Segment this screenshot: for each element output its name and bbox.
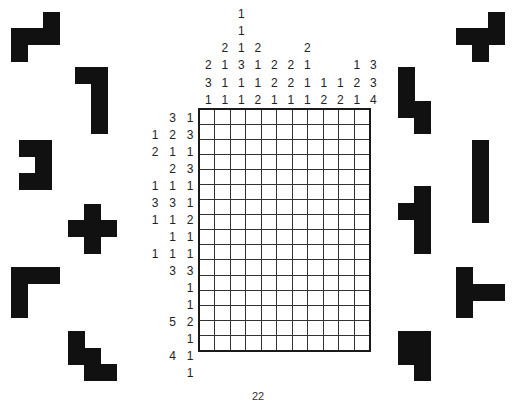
grid-cell[interactable] xyxy=(308,139,324,154)
grid-cell[interactable] xyxy=(354,335,370,350)
grid-cell[interactable] xyxy=(230,335,246,350)
grid-cell[interactable] xyxy=(339,230,355,245)
grid-cell[interactable] xyxy=(215,200,231,215)
grid-cell[interactable] xyxy=(323,305,339,320)
grid-cell[interactable] xyxy=(308,154,324,169)
grid-cell[interactable] xyxy=(339,275,355,290)
puzzle-grid[interactable] xyxy=(198,108,371,352)
grid-cell[interactable] xyxy=(199,215,215,230)
grid-cell[interactable] xyxy=(308,184,324,199)
grid-cell[interactable] xyxy=(277,245,293,260)
grid-cell[interactable] xyxy=(308,290,324,305)
grid-cell[interactable] xyxy=(292,200,308,215)
grid-cell[interactable] xyxy=(323,335,339,350)
grid-cell[interactable] xyxy=(277,154,293,169)
grid-cell[interactable] xyxy=(199,184,215,199)
grid-cell[interactable] xyxy=(261,320,277,335)
grid-cell[interactable] xyxy=(199,320,215,335)
grid-cell[interactable] xyxy=(199,245,215,260)
grid-cell[interactable] xyxy=(230,124,246,139)
grid-cell[interactable] xyxy=(308,200,324,215)
grid-cell[interactable] xyxy=(215,215,231,230)
grid-cell[interactable] xyxy=(261,260,277,275)
grid-cell[interactable] xyxy=(292,230,308,245)
grid-cell[interactable] xyxy=(199,260,215,275)
grid-cell[interactable] xyxy=(246,109,262,124)
grid-cell[interactable] xyxy=(261,215,277,230)
grid-cell[interactable] xyxy=(323,215,339,230)
grid-cell[interactable] xyxy=(261,184,277,199)
grid-cell[interactable] xyxy=(308,305,324,320)
grid-cell[interactable] xyxy=(292,320,308,335)
grid-cell[interactable] xyxy=(199,275,215,290)
grid-cell[interactable] xyxy=(323,230,339,245)
grid-cell[interactable] xyxy=(199,335,215,350)
grid-cell[interactable] xyxy=(308,124,324,139)
grid-cell[interactable] xyxy=(292,124,308,139)
grid-cell[interactable] xyxy=(199,305,215,320)
grid-cell[interactable] xyxy=(246,169,262,184)
grid-cell[interactable] xyxy=(308,230,324,245)
grid-cell[interactable] xyxy=(230,109,246,124)
grid-cell[interactable] xyxy=(339,169,355,184)
grid-cell[interactable] xyxy=(354,230,370,245)
grid-cell[interactable] xyxy=(246,184,262,199)
grid-cell[interactable] xyxy=(199,139,215,154)
grid-cell[interactable] xyxy=(230,154,246,169)
grid-cell[interactable] xyxy=(246,154,262,169)
grid-cell[interactable] xyxy=(230,200,246,215)
grid-cell[interactable] xyxy=(354,215,370,230)
grid-cell[interactable] xyxy=(215,154,231,169)
grid-cell[interactable] xyxy=(230,215,246,230)
grid-cell[interactable] xyxy=(354,184,370,199)
grid-cell[interactable] xyxy=(215,335,231,350)
grid-cell[interactable] xyxy=(354,169,370,184)
grid-cell[interactable] xyxy=(323,320,339,335)
grid-cell[interactable] xyxy=(261,335,277,350)
grid-cell[interactable] xyxy=(215,260,231,275)
grid-cell[interactable] xyxy=(292,290,308,305)
grid-cell[interactable] xyxy=(339,184,355,199)
grid-cell[interactable] xyxy=(230,305,246,320)
grid-cell[interactable] xyxy=(277,109,293,124)
grid-cell[interactable] xyxy=(230,260,246,275)
grid-cell[interactable] xyxy=(215,245,231,260)
grid-cell[interactable] xyxy=(308,215,324,230)
grid-cell[interactable] xyxy=(246,139,262,154)
grid-cell[interactable] xyxy=(308,245,324,260)
grid-cell[interactable] xyxy=(354,124,370,139)
grid-cell[interactable] xyxy=(292,335,308,350)
grid-cell[interactable] xyxy=(277,335,293,350)
grid-cell[interactable] xyxy=(261,139,277,154)
grid-cell[interactable] xyxy=(339,305,355,320)
grid-cell[interactable] xyxy=(261,154,277,169)
grid-cell[interactable] xyxy=(292,154,308,169)
grid-cell[interactable] xyxy=(215,169,231,184)
grid-cell[interactable] xyxy=(277,305,293,320)
grid-cell[interactable] xyxy=(230,245,246,260)
grid-cell[interactable] xyxy=(277,275,293,290)
grid-cell[interactable] xyxy=(277,200,293,215)
grid-cell[interactable] xyxy=(339,335,355,350)
grid-cell[interactable] xyxy=(323,290,339,305)
grid-cell[interactable] xyxy=(323,184,339,199)
grid-cell[interactable] xyxy=(277,184,293,199)
grid-cell[interactable] xyxy=(323,169,339,184)
grid-cell[interactable] xyxy=(230,184,246,199)
grid-cell[interactable] xyxy=(323,139,339,154)
grid-cell[interactable] xyxy=(292,169,308,184)
grid-cell[interactable] xyxy=(230,169,246,184)
grid-cell[interactable] xyxy=(277,139,293,154)
grid-cell[interactable] xyxy=(292,245,308,260)
grid-cell[interactable] xyxy=(339,290,355,305)
grid-cell[interactable] xyxy=(292,305,308,320)
grid-cell[interactable] xyxy=(246,215,262,230)
grid-cell[interactable] xyxy=(339,215,355,230)
grid-cell[interactable] xyxy=(292,275,308,290)
grid-cell[interactable] xyxy=(261,124,277,139)
grid-cell[interactable] xyxy=(277,320,293,335)
grid-cell[interactable] xyxy=(292,260,308,275)
grid-cell[interactable] xyxy=(246,275,262,290)
grid-cell[interactable] xyxy=(277,260,293,275)
grid-cell[interactable] xyxy=(246,305,262,320)
